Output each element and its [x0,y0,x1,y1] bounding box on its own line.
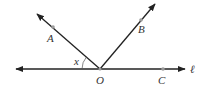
label-line-l: ℓ [190,63,195,75]
label-b: B [138,23,145,35]
label-o: O [96,74,104,86]
label-c: C [158,74,166,86]
point-b [139,18,143,22]
point-c [161,67,165,71]
label-x: x [73,55,79,67]
angle-diagram: A B C O x ℓ [0,0,206,89]
ray-ob [100,4,155,69]
angle-x-arc [82,57,86,69]
point-a [51,25,55,29]
point-o [98,67,101,70]
label-a: A [46,32,54,44]
